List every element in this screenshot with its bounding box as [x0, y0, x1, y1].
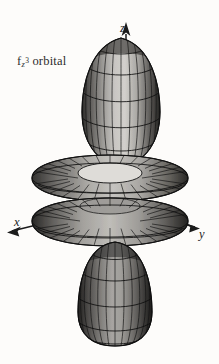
axis-label-x: x [14, 216, 20, 229]
lower-torus [32, 198, 188, 246]
upper-torus-hole [78, 163, 142, 183]
arrowhead-y [186, 223, 200, 232]
orbital-figure: fz3orbital z x y [0, 0, 219, 364]
top-lobe [80, 38, 161, 166]
bottom-lobe [77, 242, 152, 346]
axis-label-z: z [120, 22, 125, 35]
upper-torus [32, 155, 188, 201]
orbital-label: fz3orbital [17, 55, 66, 69]
orbital-label-suffix: orbital [29, 54, 66, 68]
axis-label-y: y [199, 228, 205, 241]
